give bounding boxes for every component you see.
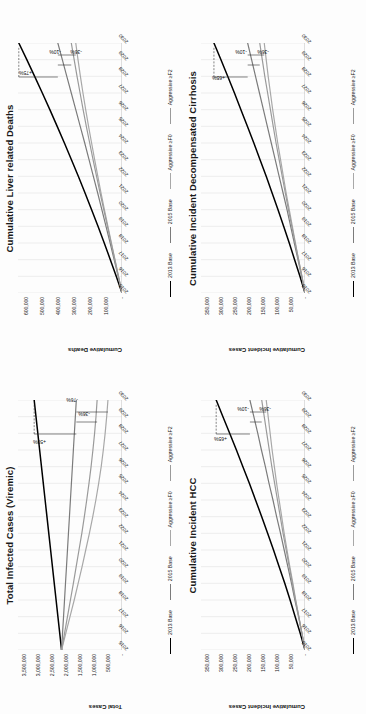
delta-annotation: -36% <box>259 406 271 412</box>
series-line <box>58 43 122 293</box>
delta-annotation: -10% <box>238 406 250 412</box>
series-line <box>76 43 122 293</box>
y-tick-label: 200,000 <box>246 654 252 706</box>
gridlines <box>18 400 122 650</box>
y-tick-label: 2,000,000 <box>63 654 69 706</box>
y-tick-label: 300,000 <box>71 297 77 349</box>
series-line <box>19 43 122 293</box>
legend-item: 2015 Base <box>350 199 356 243</box>
y-tick-label: 3,000,000 <box>35 654 41 706</box>
legend-item: 2015 Base <box>350 556 356 600</box>
x-tick-label: 2015 <box>117 640 129 652</box>
legend-item: 2015 Base <box>167 199 173 243</box>
y-tick-label: 600,000 <box>23 297 29 349</box>
legend-item: 2013 Base <box>167 610 173 654</box>
legend-item: 2013 Base <box>350 253 356 297</box>
y-tick-label: - <box>119 297 125 349</box>
legend-label: 2013 Base <box>350 610 356 635</box>
legend-swatch <box>353 173 354 189</box>
delta-annotation: +65% <box>212 75 225 81</box>
x-tick-label: 2015 <box>117 283 129 295</box>
y-axis-title: Cumulative Incident Cases <box>229 704 305 710</box>
legend-item: Aggressive ≥F0 <box>350 491 356 546</box>
legend-swatch <box>353 465 354 481</box>
series-line <box>264 43 305 293</box>
figure-sheet: Cumulative Liver related Deaths -100,000… <box>0 0 366 714</box>
legend-label: Aggressive ≥F0 <box>167 134 173 170</box>
legend-swatch <box>170 530 171 546</box>
plot-area-2 <box>18 400 122 650</box>
delta-annotation: +50% <box>33 439 46 445</box>
legend-item: Aggressive ≥F2 <box>350 426 356 481</box>
legend-swatch <box>353 108 354 124</box>
gridlines <box>18 43 122 293</box>
y-tick-label: 350,000 <box>204 297 210 349</box>
series-line <box>62 400 98 650</box>
legend-item: Aggressive ≥F2 <box>350 69 356 124</box>
legend-swatch <box>353 638 354 654</box>
chart-legend: 2013 Base2015 BaseAggressive ≥F0Aggressi… <box>346 0 360 297</box>
chart-stage-3: Cumulative Incident HCC -50,000100,00015… <box>183 357 366 714</box>
chart-stage-2: Total Infected Cases (Viremic) -500,0001… <box>0 357 183 714</box>
y-tick-label: 250,000 <box>232 297 238 349</box>
y-tick-label: 2,500,000 <box>49 654 55 706</box>
legend-swatch <box>353 281 354 297</box>
y-tick-label: 350,000 <box>204 654 210 706</box>
y-tick-label: - <box>302 297 308 349</box>
x-tick-label: 2015 <box>300 283 312 295</box>
y-axis-title: Cumulative Incident Cases <box>229 347 305 353</box>
y-tick-label: 300,000 <box>218 654 224 706</box>
y-tick-label: 100,000 <box>103 297 109 349</box>
plot-area-0 <box>18 43 122 293</box>
legend-item: 2013 Base <box>167 253 173 297</box>
legend-label: 2015 Base <box>167 199 173 224</box>
legend-swatch <box>170 465 171 481</box>
delta-annotation: -36% <box>257 49 269 55</box>
legend-item: 2013 Base <box>350 610 356 654</box>
chart-title: Total Infected Cases (Viremic) <box>4 357 15 714</box>
series-line <box>250 400 305 650</box>
y-tick-label: 500,000 <box>105 654 111 706</box>
chart-stage-0: Cumulative Liver related Deaths -100,000… <box>0 0 183 357</box>
y-tick-label: 1,000,000 <box>91 654 97 706</box>
y-tick-label: 250,000 <box>232 654 238 706</box>
delta-annotation: -36% <box>71 49 83 55</box>
legend-swatch <box>353 227 354 243</box>
legend-item: Aggressive ≥F0 <box>167 134 173 189</box>
chart-title: Cumulative Incident Decompensated Cirrho… <box>187 0 198 357</box>
legend-swatch <box>353 530 354 546</box>
y-tick-label: 200,000 <box>246 297 252 349</box>
legend-label: Aggressive ≥F2 <box>167 69 173 105</box>
chart-svg <box>18 43 122 293</box>
chart-title: Cumulative Liver related Deaths <box>4 0 15 357</box>
delta-annotation: -36% <box>79 411 91 417</box>
legend-label: Aggressive ≥F2 <box>350 426 356 462</box>
legend-label: 2013 Base <box>167 610 173 635</box>
legend-label: Aggressive ≥F0 <box>167 491 173 527</box>
legend-item: 2015 Base <box>167 556 173 600</box>
delta-annotation: -76% <box>66 397 78 403</box>
legend-label: 2015 Base <box>350 199 356 224</box>
legend-swatch <box>170 173 171 189</box>
legend-item: Aggressive ≥F0 <box>350 134 356 189</box>
legend-swatch <box>170 584 171 600</box>
legend-label: 2013 Base <box>350 253 356 278</box>
legend-label: 2015 Base <box>350 556 356 581</box>
series-line <box>214 43 305 293</box>
y-tick-label: 150,000 <box>260 654 266 706</box>
series-line <box>266 400 305 650</box>
legend-swatch <box>170 227 171 243</box>
legend-item: Aggressive ≥F0 <box>167 491 173 546</box>
y-tick-label: - <box>302 654 308 706</box>
y-tick-label: 50,000 <box>288 654 294 706</box>
y-tick-label: 300,000 <box>218 297 224 349</box>
y-tick-label: 100,000 <box>274 297 280 349</box>
series-line <box>34 400 61 650</box>
legend-swatch <box>353 584 354 600</box>
delta-annotation: -10% <box>50 49 62 55</box>
y-tick-label: - <box>119 654 125 706</box>
y-tick-label: 500,000 <box>39 297 45 349</box>
legend-label: Aggressive ≥F2 <box>350 69 356 105</box>
y-tick-label: 3,500,000 <box>21 654 27 706</box>
legend-label: Aggressive ≥F0 <box>350 134 356 170</box>
